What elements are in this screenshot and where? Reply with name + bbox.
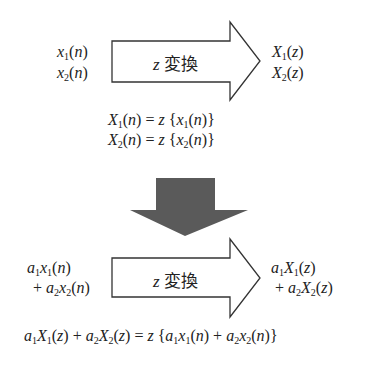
top-output-X1: X1(z) — [272, 42, 304, 61]
bottom-arrow-label: z 変換 — [153, 267, 198, 292]
bottom-equation: a1X1(z) + a2X2(z) = z {a1x1(n) + a2x2(n)… — [24, 326, 278, 345]
top-output-X2: X2(z) — [272, 63, 304, 82]
transform-text: 変換 — [164, 55, 198, 74]
transform-text: 変換 — [164, 272, 198, 291]
bottom-input-term2: + a2x2(n) — [33, 278, 90, 297]
top-equation-1: X1(n) = z {x1(n)} — [108, 110, 215, 129]
down-arrow — [130, 178, 248, 236]
bottom-output-term1: a1X1(z) — [271, 258, 316, 277]
top-equation-2: X2(n) = z {x2(n)} — [108, 130, 215, 149]
bottom-input-term1: a1x1(n) — [27, 258, 71, 277]
z-variable: z — [153, 272, 160, 291]
bottom-output-term2: + a2X2(z) — [275, 278, 333, 297]
z-variable: z — [153, 55, 160, 74]
top-arrow-label: z 変換 — [153, 50, 198, 75]
top-input-x1: x1(n) — [57, 42, 88, 61]
top-input-x2: x2(n) — [57, 63, 88, 82]
